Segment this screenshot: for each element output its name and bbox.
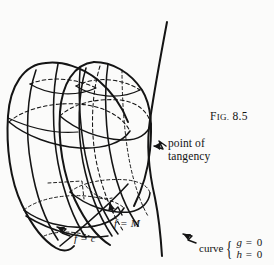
label-outer-surface-f-equals-c: f = c (74, 232, 96, 244)
figure-caption-number: 8.5 (233, 110, 248, 122)
curve-word: curve (199, 242, 223, 254)
outer-surface-value: c (91, 232, 96, 244)
outer-surface-equals: = (77, 232, 91, 244)
label-inner-surface-f-equals-m: f = M (114, 217, 140, 229)
curve-constraint-2-rhs: 0 (256, 248, 264, 260)
figure-caption-smallcaps: IG. (217, 112, 230, 122)
figure-caption-prefix: F (210, 110, 217, 122)
figure-caption: FIG. 8.5 (210, 110, 248, 123)
curve-constraint-2: h = 0 (237, 248, 264, 260)
label-point-of-tangency: point of tangency (168, 137, 210, 163)
curve-constraint-list: g = 0 h = 0 (237, 236, 264, 261)
inner-surface-equals: = (117, 217, 131, 229)
point-of-tangency-line-1: point of (168, 137, 205, 149)
curve-constraint-1: g = 0 (237, 236, 264, 248)
curve-constraint-1-rhs: 0 (256, 236, 264, 248)
curve-constraint-1-equals: = (242, 236, 256, 248)
label-curve-system: curve{ g = 0 h = 0 (199, 236, 263, 261)
figure-8-5: .ink { fill: none; stroke: #141414; stro… (0, 0, 274, 265)
point-of-tangency-line-2: tangency (168, 150, 210, 163)
inner-surface-value: M (131, 217, 140, 229)
curve-constraint-2-equals: = (242, 248, 256, 260)
curve-brace: { (226, 240, 232, 257)
